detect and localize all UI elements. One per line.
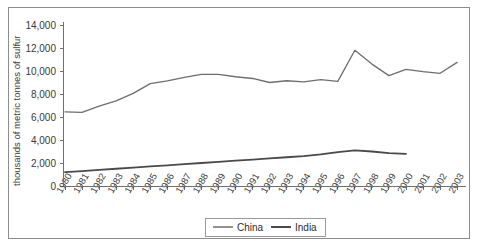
- y-tick-label: 6,000: [31, 112, 56, 123]
- data-series: [65, 50, 457, 172]
- axis-lines: [64, 22, 467, 187]
- legend-label-china: China: [237, 222, 264, 233]
- y-axis-ticks: 02,0004,0006,0008,00010,00012,00014,000: [25, 20, 63, 192]
- chart-figure: thousands of metric tonnes of sulfur 02,…: [0, 0, 479, 252]
- x-axis-ticks: 1980198119821983198419851986198719881989…: [54, 171, 466, 195]
- x-tick-label: 1994: [292, 171, 312, 195]
- x-tick-label: 1988: [190, 171, 210, 195]
- x-tick-label: 1997: [344, 171, 364, 195]
- x-tick-label: 1999: [378, 171, 398, 195]
- x-tick-label: 1990: [224, 171, 244, 195]
- y-axis-title: thousands of metric tonnes of sulfur: [11, 36, 22, 187]
- x-tick-label: 1983: [105, 171, 125, 195]
- x-tick-label: 1993: [275, 171, 295, 195]
- legend-label-india: India: [295, 222, 317, 233]
- y-tick-label: 2,000: [31, 158, 56, 169]
- x-tick-label: 1987: [173, 171, 193, 195]
- x-tick-label: 1985: [139, 171, 159, 195]
- line-chart: thousands of metric tonnes of sulfur 02,…: [0, 0, 479, 252]
- y-tick-label: 14,000: [25, 20, 56, 31]
- y-tick-label: 10,000: [25, 66, 56, 77]
- series-line-china: [65, 50, 457, 112]
- x-tick-label: 1989: [207, 171, 227, 195]
- x-tick-label: 1986: [156, 171, 176, 195]
- x-tick-label: 1995: [309, 171, 329, 195]
- x-tick-label: 1984: [122, 171, 142, 195]
- y-tick-label: 4,000: [31, 135, 56, 146]
- x-tick-label: 1996: [327, 171, 347, 195]
- x-tick-label: 2003: [446, 171, 466, 195]
- x-tick-label: 2002: [429, 171, 449, 195]
- x-tick-label: 1998: [361, 171, 381, 195]
- chart-legend: ChinaIndia: [206, 219, 326, 237]
- x-tick-label: 2000: [395, 171, 415, 195]
- y-tick-label: 12,000: [25, 43, 56, 54]
- y-axis-title-text: thousands of metric tonnes of sulfur: [11, 36, 22, 187]
- x-tick-label: 1992: [258, 171, 278, 195]
- x-tick-label: 2001: [412, 171, 432, 195]
- y-tick-label: 8,000: [31, 89, 56, 100]
- x-tick-label: 1982: [88, 171, 108, 195]
- series-line-india: [65, 150, 406, 172]
- x-tick-label: 1981: [71, 171, 91, 195]
- x-tick-label: 1991: [241, 171, 261, 195]
